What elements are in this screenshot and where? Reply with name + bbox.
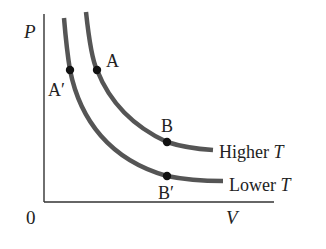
point-b-prime [163,172,171,180]
origin-label: 0 [26,207,36,228]
lower-t-label: Lower T [229,175,292,195]
point-a-label: A [106,51,119,71]
point-a-prime [66,66,74,74]
y-axis-label: P [23,21,36,42]
point-b-label: B [161,116,173,136]
point-a-prime-label: A′ [48,80,65,100]
point-b [163,138,171,146]
point-b-prime-label: B′ [158,183,174,203]
curve-higher-t [86,12,213,150]
higher-t-label: Higher T [219,142,285,162]
x-axis-label: V [226,207,240,228]
point-a [93,66,101,74]
pv-diagram: P V 0 A A′ B B′ Higher T Lower T [0,0,326,249]
